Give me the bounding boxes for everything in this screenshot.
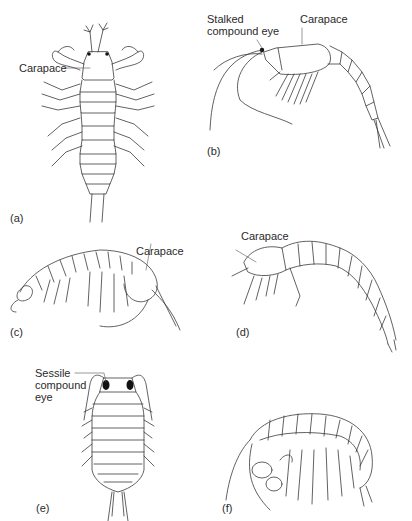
carapace-label-c: Carapace: [136, 245, 184, 257]
specimen-c: [11, 250, 180, 330]
specimen-d: [232, 241, 396, 352]
specimen-b: [210, 44, 390, 148]
crustacean-illustrations: [0, 0, 412, 521]
specimen-a: [42, 23, 154, 222]
panel-label-a: (a): [10, 212, 23, 224]
panel-label-f: (f): [222, 502, 232, 514]
specimen-e: [82, 375, 154, 521]
panel-label-d: (d): [236, 326, 249, 338]
panel-label-b: (b): [207, 145, 220, 157]
carapace-label-d: Carapace: [241, 230, 289, 242]
panel-label-e: (e): [36, 502, 49, 514]
specimen-f: [226, 414, 372, 510]
sessile-eye-label-e: Sessile compound eye: [35, 367, 86, 403]
crustacean-figure: Carapace Stalked compound eye Carapace C…: [0, 0, 412, 521]
stalked-eye-label-b: Stalked compound eye: [207, 13, 279, 37]
carapace-label-a: Carapace: [19, 62, 67, 74]
panel-label-c: (c): [10, 326, 23, 338]
carapace-label-b: Carapace: [300, 13, 348, 25]
leader-lines: [64, 28, 302, 382]
